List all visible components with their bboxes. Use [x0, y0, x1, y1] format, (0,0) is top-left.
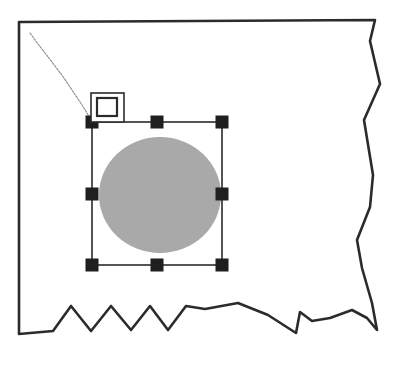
handle-top-center[interactable]: [151, 116, 164, 129]
handle-middle-left[interactable]: [86, 188, 99, 201]
selected-ellipse-shape[interactable]: [99, 137, 221, 253]
drawing-canvas[interactable]: drawing-canvas hand-drawn canvas border …: [0, 0, 400, 368]
handle-bottom-center[interactable]: [151, 259, 164, 272]
resize-square-icon: [91, 93, 124, 122]
handle-middle-right[interactable]: [216, 188, 229, 201]
pointer-drag-trail: [30, 33, 92, 121]
handle-bottom-right[interactable]: [216, 259, 229, 272]
handle-top-right[interactable]: [216, 116, 229, 129]
canvas-svg: [0, 0, 400, 368]
handle-bottom-left[interactable]: [86, 259, 99, 272]
